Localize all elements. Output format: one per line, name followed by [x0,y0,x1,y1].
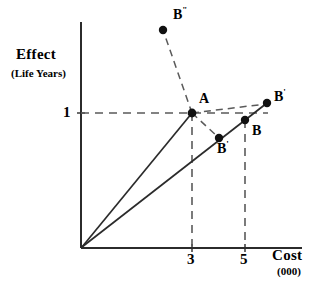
ray-origin-to-a [82,113,192,247]
x-tick-label-3: 3 [187,252,195,267]
prime-mark-lower: ' [226,139,229,149]
x-axis-title: Cost [272,248,302,263]
point-label-a: A [199,92,209,106]
point-label-b-prime-lower-base: B [217,141,226,156]
x-tick-label-5: 5 [240,252,248,267]
ray-origin-to-b-prime-right [82,103,267,247]
point-label-b-prime-lower: B' [217,142,229,156]
data-point-b-dprime [159,26,167,34]
point-label-b-prime-right: B' [274,90,286,104]
data-point-a [188,109,197,118]
plot-canvas [0,0,324,287]
cost-effectiveness-figure: Effect (Life Years) Cost (000) 3 5 1 A B… [0,0,324,287]
connector-a-to-b-dprime [163,30,192,113]
data-point-b [241,116,249,124]
y-tick-label-1: 1 [63,105,71,120]
connector-a-to-b-prime-lower [192,113,219,138]
prime-mark-right: ' [283,87,286,97]
double-prime-mark: " [182,5,187,15]
point-label-b-double-prime-base: B [173,7,182,22]
point-label-b-prime-right-base: B [274,89,283,104]
y-axis-title: Effect [16,47,56,62]
y-axis-subtitle: (Life Years) [11,68,66,79]
data-point-b-prime-right [263,99,271,107]
x-axis-subtitle: (000) [277,266,301,277]
point-label-b-double-prime: B" [173,8,187,22]
point-label-b: B [252,124,261,138]
